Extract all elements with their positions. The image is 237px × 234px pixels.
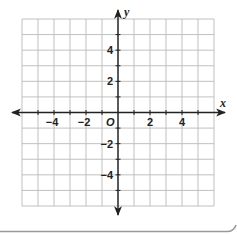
y-tick-label: −2 [100,138,113,150]
y-tick-label: 4 [107,44,114,56]
y-tick-label: −4 [100,169,113,181]
x-tick-label: −4 [46,116,59,128]
x-tick-label: 2 [147,116,153,128]
card-bottom-border [0,225,236,232]
y-axis-label: y [122,5,130,19]
x-axis-label: x [219,96,226,110]
coordinate-plane: −4−224 42−2−4 x y O [0,0,237,234]
x-tick-label: 4 [179,116,186,128]
origin-label: O [106,116,115,128]
x-tick-label: −2 [78,116,91,128]
x-tick-labels: −4−224 [46,116,186,128]
y-tick-label: 2 [107,75,113,87]
